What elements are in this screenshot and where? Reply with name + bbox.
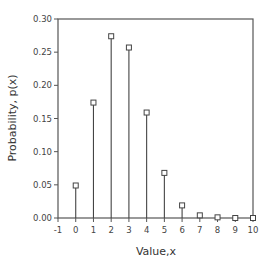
x-tick-label: 4 [144,225,149,235]
y-axis-ticks: 0.000.050.100.150.200.250.30 [33,14,58,223]
x-tick-label: 7 [197,225,202,235]
plot-border [58,19,253,218]
x-tick-label: 6 [179,225,184,235]
x-tick-label: 2 [108,225,113,235]
x-tick-label: 9 [233,225,238,235]
y-tick-label: 0.20 [33,80,52,90]
y-tick-label: 0.00 [33,213,52,223]
y-tick-label: 0.25 [33,47,52,57]
x-tick-label: 5 [162,225,167,235]
x-tick-label: 1 [91,225,96,235]
y-axis-title: Probability, p(x) [6,74,19,161]
square-marker [162,170,167,175]
x-tick-label: 3 [126,225,131,235]
square-marker [73,183,78,188]
y-tick-label: 0.10 [33,147,52,157]
x-axis-ticks: -1012345678910 [54,218,259,235]
y-tick-label: 0.05 [33,180,52,190]
square-marker [144,110,149,115]
square-marker [215,215,220,220]
square-marker [233,216,238,221]
square-marker [197,213,202,218]
x-axis-title: Value,x [136,245,177,258]
x-tick-label: 8 [215,225,220,235]
x-tick-label: 10 [248,225,259,235]
square-marker [91,100,96,105]
square-marker [251,216,256,221]
y-tick-label: 0.30 [33,14,52,24]
square-marker [180,203,185,208]
stem-chart: 0.000.050.100.150.200.250.30 -1012345678… [0,0,267,268]
x-tick-label: 0 [73,225,78,235]
square-marker [109,34,114,39]
data-stems [73,34,255,221]
y-tick-label: 0.15 [33,114,52,124]
plot-frame [58,19,253,218]
x-tick-label: -1 [54,225,62,235]
square-marker [126,45,131,50]
